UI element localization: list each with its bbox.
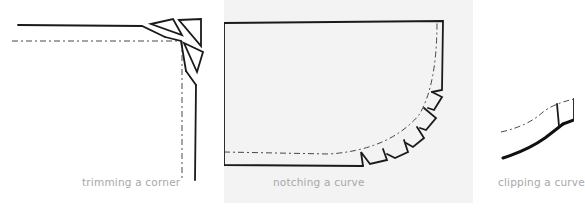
figure-trimming-corner: trimming a corner xyxy=(0,0,224,218)
caption-clipping-curve: clipping a curve xyxy=(498,176,585,188)
figure-notching-curve: notching a curve xyxy=(224,0,473,203)
notched-curve-illustration xyxy=(224,0,473,203)
caption-trimming-corner: trimming a corner xyxy=(82,176,180,188)
figure-clipping-curve: clipping a curve xyxy=(473,0,574,218)
caption-notching-curve: notching a curve xyxy=(273,176,365,188)
